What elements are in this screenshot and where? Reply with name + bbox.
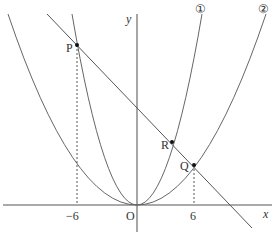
y-axis-label: y [125,12,132,26]
tick-label-6: 6 [190,209,196,223]
x-axis-label: x [262,207,269,221]
origin-label: O [126,209,135,223]
point-q-label: Q [180,159,189,173]
point-r-label: R [161,138,169,152]
point-r [170,140,174,144]
curve-1-label: ① [195,2,206,16]
curve-2-label: ② [258,2,269,16]
tick-label-neg6: −6 [66,209,79,223]
point-q [192,163,196,167]
point-p-label: P [66,41,73,55]
point-p [75,43,79,47]
diagram-canvas: P R Q ① ② y x O −6 6 [0,0,275,232]
